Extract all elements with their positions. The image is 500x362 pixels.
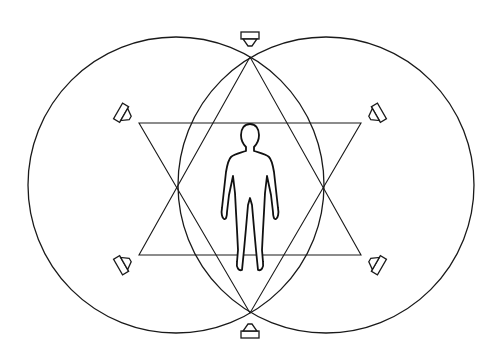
left-circle bbox=[28, 37, 324, 333]
speaker-upper-right-icon bbox=[365, 103, 386, 126]
human-figure-icon bbox=[222, 124, 279, 270]
speaker-layout-diagram: Speaker arrangement around listener bbox=[0, 0, 500, 362]
speaker-bottom-icon bbox=[241, 324, 259, 338]
speaker-lower-right-icon bbox=[365, 252, 386, 275]
speaker-upper-left-icon bbox=[114, 103, 135, 126]
speaker-top-icon bbox=[241, 32, 259, 46]
speaker-lower-left-icon bbox=[114, 252, 135, 275]
right-circle bbox=[178, 37, 474, 333]
